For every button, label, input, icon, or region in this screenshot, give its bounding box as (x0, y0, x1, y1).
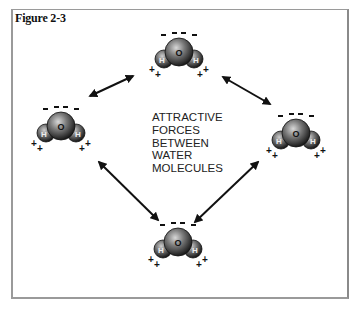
water-molecule-right (266, 113, 326, 161)
attraction-arrow-bottom-right (195, 162, 258, 222)
water-molecule-bottom (148, 222, 208, 270)
attraction-arrow-top-right (223, 77, 270, 104)
water-molecule-left (31, 106, 91, 154)
attraction-arrow-top-left (90, 76, 133, 96)
water-molecule-top (149, 32, 209, 80)
water-molecules-diagram: O H H + + + + (0, 0, 352, 311)
attraction-arrow-bottom-left (99, 162, 158, 220)
